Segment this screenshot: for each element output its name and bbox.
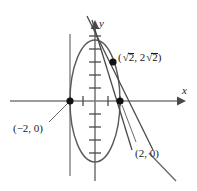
point-marker-neg2-0 <box>66 97 73 104</box>
radical-bar-x <box>128 53 135 54</box>
math-figure: (√2, 2√2) (−2, 0) (2, 0) x y <box>0 0 197 191</box>
sqrt-y: √2 <box>145 52 158 63</box>
y-axis-label: y <box>99 18 104 29</box>
x-axis <box>10 97 186 106</box>
point-marker-pos2-0 <box>116 97 123 104</box>
paren-close: ) <box>158 51 162 63</box>
sqrt-x: √2 <box>122 52 135 63</box>
point-label-pos2-0: (2, 0) <box>135 148 159 159</box>
point-marker-sqrt2 <box>109 58 116 65</box>
tangent-line <box>87 16 153 150</box>
x-axis-label: x <box>182 85 187 96</box>
radical-bar-y <box>151 53 158 54</box>
point-label-sqrt2: (√2, 2√2) <box>118 52 161 63</box>
point-label-neg2-0: (−2, 0) <box>13 123 43 134</box>
leader-line-neg2 <box>49 103 68 122</box>
